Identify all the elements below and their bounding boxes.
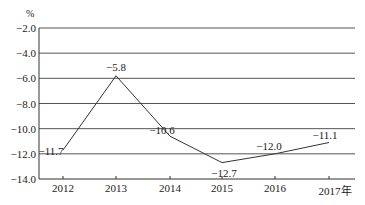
y-tick-label: −2.0 (0, 22, 36, 34)
data-label: −11.1 (305, 129, 345, 141)
x-tick-label: 2017年 (315, 182, 355, 198)
x-tick-label: 2015 (202, 182, 242, 194)
y-tick-label: −14.0 (0, 173, 36, 185)
data-label: −10.6 (142, 124, 182, 136)
data-label: −5.8 (96, 61, 136, 73)
plot-area (0, 0, 365, 205)
x-tick-label: 2012 (43, 182, 83, 194)
y-tick-label: −10.0 (0, 123, 36, 135)
y-tick-label: −8.0 (0, 98, 36, 110)
series-line (63, 76, 329, 163)
y-tick-label: −4.0 (0, 47, 36, 59)
data-label: −12.0 (249, 140, 289, 152)
x-tick-label: 2014 (150, 182, 190, 194)
y-axis-unit: % (26, 8, 34, 19)
data-label: −11.7 (31, 145, 71, 157)
data-label: −12.7 (204, 167, 244, 179)
y-tick-label: −6.0 (0, 72, 36, 84)
line-chart: % −2.0−4.0−6.0−8.0−10.0−12.0−14.0 201220… (0, 0, 365, 205)
x-tick-label: 2016 (255, 182, 295, 194)
x-tick-label: 2013 (96, 182, 136, 194)
